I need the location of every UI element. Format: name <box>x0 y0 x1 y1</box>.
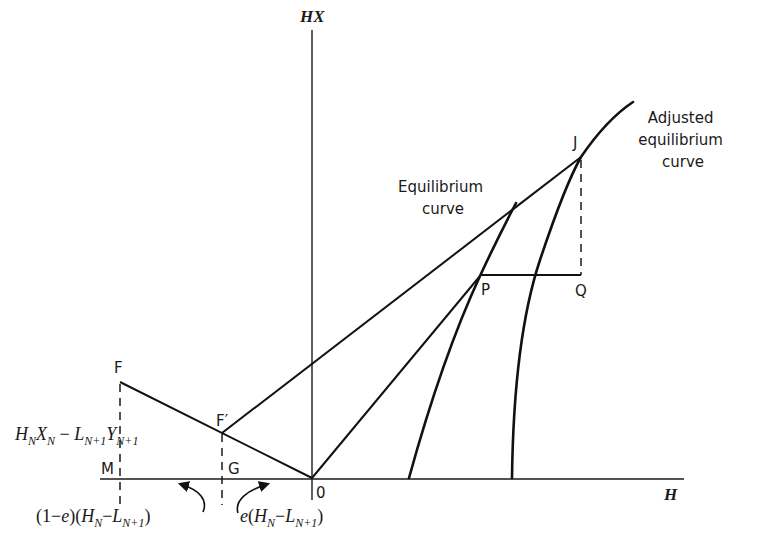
point-label-g: G <box>228 460 240 478</box>
left-segment-label: (1−e)(HN−LN+1) <box>36 506 150 530</box>
point-label-q: Q <box>575 282 587 300</box>
right-segment-label: e(HN−LN+1) <box>240 506 323 530</box>
point-label-j: J <box>572 134 577 152</box>
point-label-m: M <box>101 460 114 478</box>
axis-label-hx: HX <box>299 7 325 26</box>
equilibrium-curve <box>409 203 516 478</box>
left-segment-arrow-icon <box>180 484 204 512</box>
ponchon-savarit-diagram: HX H 0 F F′ M G P Q J Equilibrium curve … <box>0 0 759 546</box>
line-f-to-origin <box>120 382 312 478</box>
adjusted-equilibrium-curve <box>512 102 633 478</box>
line-origin-to-p <box>312 276 480 478</box>
line-fprime-through-p-to-j <box>222 157 581 433</box>
point-label-p: P <box>481 281 490 299</box>
adjusted-curve-label: Adjusted equilibrium curve <box>638 109 728 171</box>
point-label-f: F <box>114 359 123 377</box>
point-label-fprime: F′ <box>216 412 229 430</box>
equilibrium-curve-label: Equilibrium curve <box>398 178 488 218</box>
axis-label-h: H <box>663 485 678 504</box>
origin-label: 0 <box>316 484 326 502</box>
